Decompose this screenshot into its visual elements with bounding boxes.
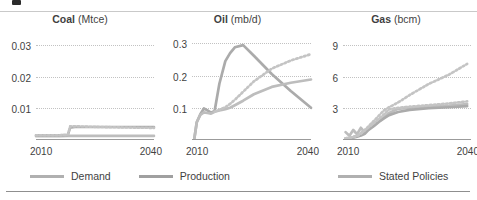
legend-label-demand: Demand	[71, 170, 111, 182]
clipped-glyph-above	[12, 0, 21, 5]
chart-panel-coal: Coal (Mtce) 0.03 0.02 0.01 2010 2040	[0, 12, 160, 162]
plot-area-coal: 0.03 0.02 0.01 2010 2040	[36, 29, 154, 140]
ytick-label-coal-0: 0.03	[12, 40, 31, 51]
xtick-label-coal-start: 2010	[30, 146, 52, 157]
panel-title-unit-coal: (Mtce)	[78, 13, 108, 25]
panel-title-name-oil: Oil	[214, 13, 228, 25]
legend-swatch-stated-policies	[338, 175, 372, 178]
legend-label-production: Production	[180, 170, 230, 182]
panel-title-coal: Coal (Mtce)	[0, 13, 160, 25]
series-svg-coal	[36, 29, 154, 140]
bottom-divider-rule	[6, 191, 470, 192]
ytick-label-coal-1: 0.02	[12, 72, 31, 83]
plot-area-gas: 9 6 3 2010 2040	[343, 29, 471, 140]
xaxis-gas	[343, 139, 471, 140]
panel-title-unit-oil: (mb/d)	[231, 13, 261, 25]
legend-swatch-demand	[30, 175, 64, 178]
panel-title-unit-gas: (bcm)	[394, 13, 421, 25]
panel-title-name-coal: Coal	[52, 13, 75, 25]
series-line-coal-africa-case	[36, 126, 154, 135]
panel-title-name-gas: Gas	[371, 13, 391, 25]
panel-title-oil: Oil (mb/d)	[160, 13, 315, 25]
ytick-label-gas-0: 9	[332, 40, 338, 51]
legend-item-demand[interactable]: Demand	[30, 170, 111, 182]
chart-panel-group: Coal (Mtce) 0.03 0.02 0.01 2010 2040	[0, 12, 477, 162]
series-svg-oil	[192, 29, 311, 140]
panel-title-gas: Gas (bcm)	[315, 13, 477, 25]
legend-item-stated-policies[interactable]: Stated Policies	[338, 170, 448, 182]
ytick-label-oil-1: 0.2	[173, 71, 187, 82]
xaxis-oil	[192, 139, 311, 140]
series-line-oil-demand	[194, 80, 311, 139]
legend-item-production[interactable]: Production	[139, 170, 230, 182]
legend-swatch-production	[139, 175, 173, 178]
xtick-label-coal-end: 2040	[140, 146, 162, 157]
legend-label-stated-policies: Stated Policies	[379, 170, 448, 182]
plot-area-oil: 0.3 0.2 0.1 2010 2040	[192, 29, 311, 140]
ytick-label-coal-2: 0.01	[12, 104, 31, 115]
ytick-label-gas-2: 3	[332, 104, 338, 115]
ytick-label-gas-1: 6	[332, 72, 338, 83]
xtick-label-gas-end: 2040	[457, 146, 477, 157]
chart-panel-gas: Gas (bcm) 9 6 3 2010 2040	[315, 12, 477, 162]
series-line-gas-africa-case	[346, 64, 468, 139]
xtick-label-gas-start: 2010	[337, 146, 359, 157]
xaxis-coal	[36, 139, 154, 140]
chart-legend: Demand Production Stated Policies Africa…	[0, 166, 477, 186]
ytick-label-oil-2: 0.1	[173, 103, 187, 114]
series-line-gas-production	[346, 106, 468, 138]
chart-panel-oil: Oil (mb/d) 0.3 0.2 0.1 2010 2040	[160, 12, 315, 162]
series-svg-gas	[343, 29, 471, 140]
xtick-label-oil-start: 2010	[186, 146, 208, 157]
ytick-label-oil-0: 0.3	[173, 39, 187, 50]
